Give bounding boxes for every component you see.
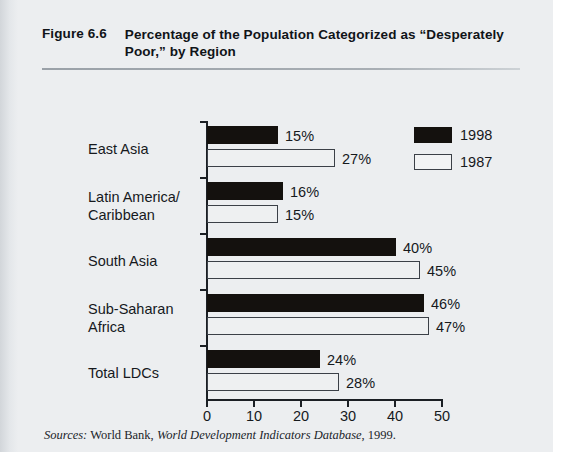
bar-total-ldcs-1998 (207, 350, 320, 368)
bar-value-south-asia-1987: 45% (427, 263, 456, 279)
legend-swatch-icon-1987 (414, 154, 452, 170)
category-label-line1: Sub-Saharan (88, 301, 203, 319)
bar-sub-saharan-africa-1998 (207, 294, 424, 312)
source-after: , 1999. (362, 428, 396, 442)
category-label-line1: Latin America/ (88, 189, 203, 207)
category-label-sub-saharan-africa: Sub-Saharan Africa (88, 301, 203, 336)
x-axis-tick (206, 401, 208, 407)
source-before: World Bank, (87, 428, 157, 442)
bar-east-asia-1998 (207, 126, 278, 144)
bar-value-total-ldcs-1987: 28% (346, 375, 375, 391)
bar-south-asia-1987 (207, 261, 420, 279)
x-axis-tick (394, 401, 396, 407)
source-publication: World Development Indicators Database (157, 428, 362, 442)
x-axis-tick-label: 20 (293, 408, 309, 424)
category-label-line1: East Asia (88, 141, 203, 159)
source-note: Sources: World Bank, World Development I… (44, 428, 396, 443)
legend-label-1998: 1998 (460, 127, 492, 143)
category-label-line1: Total LDCs (88, 365, 203, 383)
bar-value-east-asia-1998: 15% (285, 128, 314, 144)
y-axis-tick (200, 121, 207, 123)
x-axis-tick (441, 401, 443, 407)
bar-value-latin-america-1998: 16% (290, 184, 319, 200)
x-axis-tick-label: 0 (203, 408, 211, 424)
bar-value-total-ldcs-1998: 24% (327, 352, 356, 368)
bar-value-sub-saharan-africa-1998: 46% (431, 296, 460, 312)
chart-plot-area: 0 10 20 30 40 50 East Asia Latin America… (0, 0, 573, 468)
x-axis-tick (253, 401, 255, 407)
legend-item-1987: 1987 (414, 151, 492, 172)
category-label-total-ldcs: Total LDCs (88, 365, 203, 383)
category-label-line2: Caribbean (88, 207, 203, 225)
y-axis-tick (200, 345, 207, 347)
bar-value-latin-america-1987: 15% (285, 207, 314, 223)
x-axis-tick-label: 50 (434, 408, 450, 424)
bar-east-asia-1987 (207, 149, 335, 167)
x-axis-tick-label: 10 (246, 408, 262, 424)
category-label-line2: Africa (88, 319, 203, 337)
y-axis-tick (200, 233, 207, 235)
x-axis-tick-label: 30 (340, 408, 356, 424)
figure-page: Figure 6.6 Percentage of the Population … (0, 0, 573, 468)
legend-label-1987: 1987 (460, 154, 492, 170)
source-label: Sources: (44, 428, 87, 442)
bar-latin-america-1987 (207, 205, 278, 223)
bar-value-east-asia-1987: 27% (342, 151, 371, 167)
legend-swatch-icon-1998 (414, 127, 452, 143)
category-label-line1: South Asia (88, 253, 203, 271)
bar-value-south-asia-1998: 40% (403, 240, 432, 256)
category-label-latin-america-caribbean: Latin America/ Caribbean (88, 189, 203, 224)
x-axis-tick (300, 401, 302, 407)
bar-south-asia-1998 (207, 238, 396, 256)
y-axis-tick (200, 177, 207, 179)
bar-latin-america-1998 (207, 182, 283, 200)
chart-legend: 1998 1987 (414, 124, 492, 178)
category-label-east-asia: East Asia (88, 141, 203, 159)
category-label-south-asia: South Asia (88, 253, 203, 271)
y-axis-tick (200, 289, 207, 291)
x-axis-tick (347, 401, 349, 407)
bar-total-ldcs-1987 (207, 373, 339, 391)
x-axis-line (206, 399, 443, 401)
x-axis-tick-label: 40 (387, 408, 403, 424)
bar-value-sub-saharan-africa-1987: 47% (436, 319, 465, 335)
bar-sub-saharan-africa-1987 (207, 317, 429, 335)
legend-item-1998: 1998 (414, 124, 492, 145)
